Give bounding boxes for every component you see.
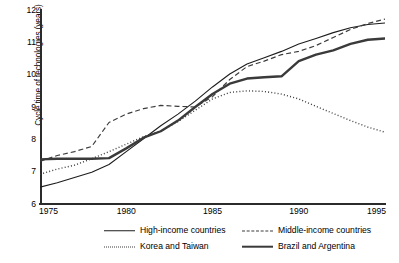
x-tick-label-1990: 1990 (279, 206, 319, 216)
x-tick-label-1985: 1985 (193, 206, 233, 216)
x-tick-label-1980: 1980 (106, 206, 146, 216)
series-line-middle-income-countries (40, 19, 385, 161)
legend-line-sample-solid-thin-icon (104, 225, 135, 236)
series-line-high-income-countries (40, 23, 385, 187)
x-tick-label-1975: 1975 (39, 206, 79, 216)
y-axis-tick-labels: 6789101112 (0, 0, 40, 214)
legend-line-sample-dashed-icon (242, 225, 273, 236)
y-tick-label-9: 9 (14, 103, 36, 112)
chart-legend: High-income countries Middle-income coun… (28, 223, 374, 259)
legend-item-brazil-and-argentina: Brazil and Argentina (242, 239, 355, 254)
legend-row-1: High-income countries Middle-income coun… (28, 223, 374, 238)
legend-item-high-income-countries: High-income countries (104, 223, 226, 238)
legend-label-high-income-countries: High-income countries (140, 226, 226, 235)
x-axis-tick-labels: 19751980198519901995 (0, 205, 399, 221)
series-layer (40, 10, 385, 204)
y-tick-label-11: 11 (14, 38, 36, 47)
legend-label-korea-and-taiwan: Korea and Taiwan (140, 242, 209, 251)
legend-row-2: Korea and Taiwan Brazil and Argentina (28, 239, 374, 254)
y-tick-label-8: 8 (14, 135, 36, 144)
legend-line-sample-solid-thick-icon (242, 241, 273, 252)
x-tick-label-1995: 1995 (346, 206, 386, 216)
series-line-korea-and-taiwan (40, 91, 385, 174)
y-tick-label-10: 10 (14, 70, 36, 79)
legend-line-sample-dotted-icon (104, 241, 135, 252)
y-tick-label-12: 12 (14, 6, 36, 15)
legend-item-korea-and-taiwan: Korea and Taiwan (104, 239, 209, 254)
legend-item-middle-income-countries: Middle-income countries (242, 223, 371, 238)
chart-figure: Cycle time of technologies (years) 67891… (0, 0, 399, 263)
legend-label-middle-income-countries: Middle-income countries (278, 226, 371, 235)
y-tick-label-7: 7 (14, 167, 36, 176)
legend-label-brazil-and-argentina: Brazil and Argentina (278, 242, 355, 251)
plot-area (40, 10, 385, 204)
